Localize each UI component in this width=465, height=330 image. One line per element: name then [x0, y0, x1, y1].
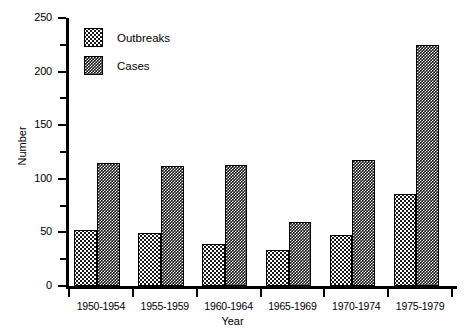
x-tick-label: 1955-1959 — [133, 300, 197, 312]
y-tick-label: 200 — [18, 66, 52, 77]
y-tick-major — [58, 17, 66, 19]
x-tick-label: 1950-1954 — [69, 300, 133, 312]
x-tick — [132, 289, 134, 297]
y-tick-minor — [60, 205, 66, 207]
bar-cases-1955-1959 — [161, 166, 184, 286]
y-tick-major — [58, 231, 66, 233]
legend-item-outbreaks: Outbreaks — [84, 28, 170, 47]
x-axis-line — [66, 286, 457, 289]
legend-swatch-outbreaks — [84, 28, 103, 47]
bar-cases-1960-1964 — [225, 165, 248, 286]
x-tick — [260, 289, 262, 297]
legend-item-cases: Cases — [84, 56, 170, 75]
bar-cases-1950-1954 — [97, 163, 120, 286]
y-tick-minor — [60, 258, 66, 260]
bar-outbreaks-1975-1979 — [394, 194, 417, 286]
x-axis-title: Year — [0, 315, 465, 327]
legend-swatch-cases — [84, 56, 103, 75]
bar-outbreaks-1965-1969 — [266, 250, 289, 286]
x-tick — [387, 289, 389, 297]
y-tick-minor — [60, 151, 66, 153]
y-tick-major — [58, 178, 66, 180]
x-tick-label: 1975-1979 — [388, 300, 452, 312]
x-tick — [451, 289, 453, 297]
y-tick-major — [58, 71, 66, 73]
bar-cases-1975-1979 — [416, 45, 439, 286]
x-tick — [323, 289, 325, 297]
bar-outbreaks-1970-1974 — [330, 235, 353, 286]
bar-outbreaks-1950-1954 — [74, 230, 97, 286]
legend-label-outbreaks: Outbreaks — [117, 32, 170, 44]
bar-cases-1965-1969 — [289, 222, 312, 286]
x-tick — [68, 289, 70, 297]
y-tick-minor — [60, 97, 66, 99]
x-tick — [196, 289, 198, 297]
legend-label-cases: Cases — [117, 60, 150, 72]
x-tick-label: 1970-1974 — [324, 300, 388, 312]
x-tick-label: 1965-1969 — [261, 300, 325, 312]
bar-chart: Number 050100150200250 1950-19541955-195… — [0, 0, 465, 330]
bar-outbreaks-1955-1959 — [138, 233, 161, 286]
y-tick-label: 0 — [18, 280, 52, 291]
y-tick-label: 250 — [18, 12, 52, 23]
y-tick-label: 50 — [18, 226, 52, 237]
y-tick-minor — [60, 44, 66, 46]
y-axis-line — [66, 18, 69, 288]
y-tick-major — [58, 285, 66, 287]
y-tick-label: 100 — [18, 173, 52, 184]
y-tick-major — [58, 124, 66, 126]
y-tick-label: 150 — [18, 119, 52, 130]
bar-cases-1970-1974 — [352, 160, 375, 286]
bar-outbreaks-1960-1964 — [202, 244, 225, 286]
chart-legend: Outbreaks Cases — [84, 28, 170, 84]
x-tick-label: 1960-1964 — [197, 300, 261, 312]
